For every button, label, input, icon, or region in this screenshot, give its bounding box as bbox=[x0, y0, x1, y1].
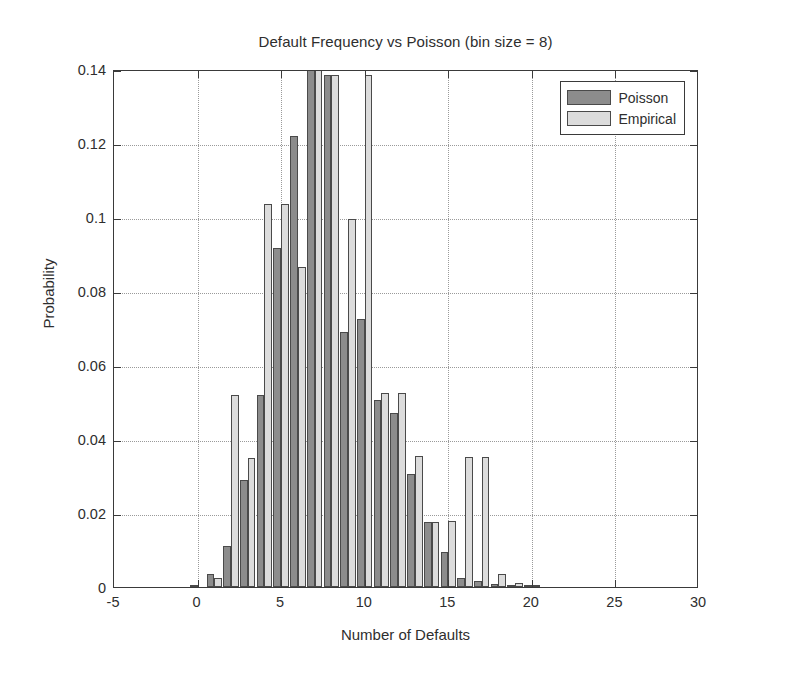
x-tick-mark bbox=[615, 71, 616, 78]
x-tick-label: 30 bbox=[690, 594, 706, 610]
bar-poisson-1 bbox=[207, 574, 215, 587]
x-tick-label: 10 bbox=[356, 594, 372, 610]
bar-poisson-12 bbox=[390, 413, 398, 587]
y-tick-mark bbox=[114, 441, 121, 442]
bar-empirical-15 bbox=[448, 521, 456, 587]
bar-poisson-9 bbox=[340, 332, 348, 587]
x-tick-label: 5 bbox=[276, 594, 284, 610]
bar-empirical-20 bbox=[532, 585, 540, 587]
x-tick-label: -5 bbox=[107, 594, 120, 610]
bar-poisson-19 bbox=[507, 585, 515, 587]
bar-empirical-10 bbox=[365, 75, 373, 587]
x-tick-label: 20 bbox=[523, 594, 539, 610]
gridline-vertical bbox=[448, 71, 449, 587]
bar-poisson-8 bbox=[324, 75, 332, 587]
gridline-horizontal bbox=[114, 367, 697, 368]
bar-poisson-16 bbox=[457, 578, 465, 587]
bar-poisson-2 bbox=[223, 546, 231, 587]
x-tick-mark bbox=[365, 580, 366, 587]
bar-empirical-12 bbox=[398, 393, 406, 587]
bar-poisson-13 bbox=[407, 474, 415, 587]
y-tick-mark bbox=[690, 367, 697, 368]
legend-item-poisson[interactable]: Poisson bbox=[567, 87, 676, 108]
gridline-vertical bbox=[198, 71, 199, 587]
bar-poisson-5 bbox=[273, 248, 281, 587]
y-tick-mark bbox=[114, 367, 121, 368]
bar-poisson-7 bbox=[307, 70, 315, 587]
chart-legend[interactable]: PoissonEmpirical bbox=[560, 81, 685, 135]
y-tick-mark bbox=[114, 219, 121, 220]
gridline-horizontal bbox=[114, 293, 697, 294]
chart-title: Default Frequency vs Poisson (bin size =… bbox=[113, 33, 698, 50]
y-tick-label: 0.04 bbox=[78, 432, 106, 448]
y-tick-label: 0.08 bbox=[78, 284, 106, 300]
bar-poisson-15 bbox=[441, 552, 449, 587]
x-tick-mark bbox=[281, 71, 282, 78]
bar-poisson-6 bbox=[290, 136, 298, 587]
x-tick-mark bbox=[281, 580, 282, 587]
bar-empirical-9 bbox=[348, 219, 356, 587]
y-tick-label: 0 bbox=[98, 580, 106, 596]
y-tick-mark bbox=[690, 515, 697, 516]
bar-poisson-3 bbox=[240, 480, 248, 587]
bar-empirical-6 bbox=[298, 267, 306, 587]
y-tick-mark bbox=[114, 293, 121, 294]
x-tick-mark bbox=[365, 71, 366, 78]
bar-empirical-8 bbox=[331, 75, 339, 587]
bar-poisson-4 bbox=[257, 395, 265, 587]
legend-swatch-poisson bbox=[567, 90, 611, 105]
gridline-vertical bbox=[532, 71, 533, 587]
bar-empirical-16 bbox=[465, 457, 473, 587]
x-tick-label: 15 bbox=[439, 594, 455, 610]
bar-poisson-0 bbox=[190, 585, 198, 587]
bar-empirical-13 bbox=[415, 456, 423, 587]
y-tick-label: 0.1 bbox=[86, 210, 106, 226]
y-tick-label: 0.06 bbox=[78, 358, 106, 374]
x-tick-mark bbox=[532, 71, 533, 78]
gridline-horizontal bbox=[114, 219, 697, 220]
y-tick-mark bbox=[690, 219, 697, 220]
bar-poisson-17 bbox=[474, 581, 482, 587]
y-tick-label: 0.02 bbox=[78, 506, 106, 522]
x-tick-label: 0 bbox=[193, 594, 201, 610]
x-tick-label: 25 bbox=[606, 594, 622, 610]
y-axis-tick-labels: 00.020.040.060.080.10.120.14 bbox=[38, 70, 106, 588]
bar-poisson-10 bbox=[357, 319, 365, 587]
x-axis-label: Number of Defaults bbox=[113, 626, 698, 643]
y-tick-mark bbox=[114, 145, 121, 146]
legend-label: Poisson bbox=[618, 90, 668, 106]
chart-figure: Default Frequency vs Poisson (bin size =… bbox=[0, 0, 810, 681]
y-tick-label: 0.12 bbox=[78, 136, 106, 152]
legend-item-empirical[interactable]: Empirical bbox=[567, 108, 676, 129]
legend-swatch-empirical bbox=[567, 111, 611, 126]
x-tick-mark bbox=[448, 580, 449, 587]
legend-label: Empirical bbox=[618, 111, 676, 127]
y-tick-mark bbox=[690, 293, 697, 294]
x-tick-mark bbox=[532, 580, 533, 587]
y-tick-mark bbox=[114, 71, 121, 72]
bar-poisson-11 bbox=[374, 400, 382, 587]
bar-empirical-4 bbox=[264, 204, 272, 587]
bar-empirical-1 bbox=[214, 578, 222, 587]
x-tick-mark bbox=[448, 71, 449, 78]
y-tick-mark bbox=[690, 71, 697, 72]
bar-empirical-17 bbox=[482, 457, 490, 587]
bar-empirical-11 bbox=[381, 393, 389, 587]
bar-poisson-20 bbox=[524, 585, 532, 587]
plot-area: PoissonEmpirical bbox=[113, 70, 698, 588]
y-tick-mark bbox=[690, 441, 697, 442]
x-axis-tick-labels: -5051015202530 bbox=[113, 594, 698, 618]
bar-empirical-19 bbox=[515, 583, 523, 587]
y-tick-label: 0.14 bbox=[78, 62, 106, 78]
x-tick-mark bbox=[615, 580, 616, 587]
bar-empirical-18 bbox=[498, 574, 506, 587]
y-tick-mark bbox=[690, 145, 697, 146]
bar-empirical-14 bbox=[432, 522, 440, 587]
bar-empirical-5 bbox=[281, 204, 289, 587]
bar-empirical-3 bbox=[248, 458, 256, 588]
gridline-vertical bbox=[615, 71, 616, 587]
y-tick-mark bbox=[114, 515, 121, 516]
gridline-horizontal bbox=[114, 145, 697, 146]
bar-poisson-18 bbox=[491, 584, 499, 587]
bar-empirical-7 bbox=[315, 70, 323, 587]
